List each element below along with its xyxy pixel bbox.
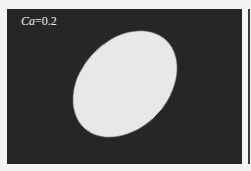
ca-value: =0.2: [35, 14, 57, 28]
adjacent-panel-edge: [248, 9, 250, 164]
ca-symbol: Ca: [21, 14, 35, 28]
image-panel: Ca=0.2: [7, 9, 242, 164]
capillary-number-label: Ca=0.2: [21, 14, 57, 28]
droplet-ellipse: [52, 10, 198, 158]
